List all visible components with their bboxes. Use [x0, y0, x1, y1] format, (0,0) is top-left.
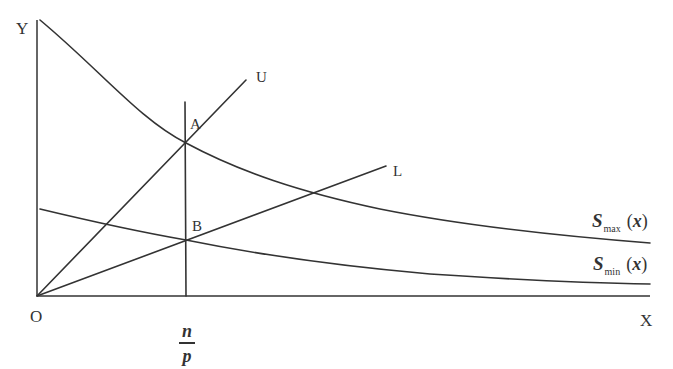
n-over-p-vertical-line: [185, 102, 186, 296]
fraction-numerator: n: [176, 322, 198, 340]
smin-subscript: min: [605, 266, 621, 277]
smax-arg-close: ): [642, 211, 648, 231]
n-over-p-label: n p: [176, 322, 198, 365]
y-axis-label: Y: [16, 20, 28, 37]
smax-arg: x: [633, 211, 642, 231]
origin-label: O: [30, 308, 42, 325]
point-b-label: B: [192, 219, 202, 234]
line-l-label: L: [393, 164, 402, 179]
smax-subscript: max: [604, 223, 621, 234]
curve-smax: [40, 20, 650, 243]
line-l: [37, 166, 386, 296]
x-axis-label: X: [640, 312, 652, 329]
curve-smin-label: Smin(x): [593, 254, 647, 273]
smin-arg: x: [632, 254, 641, 274]
smin-arg-close: ): [641, 254, 647, 274]
line-u-label: U: [256, 70, 267, 85]
smax-symbol: S: [592, 210, 603, 231]
curve-smax-label: Smax(x): [592, 211, 648, 230]
curve-smin: [40, 209, 650, 284]
fraction-bar: [179, 342, 195, 344]
point-a-label: A: [190, 117, 201, 132]
smin-symbol: S: [593, 253, 604, 274]
fraction-denominator: p: [176, 347, 198, 365]
diagram-canvas: [0, 0, 673, 369]
